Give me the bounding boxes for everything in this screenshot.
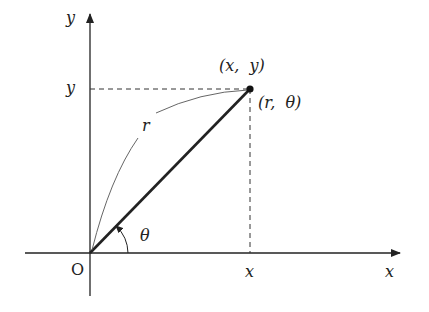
point-marker xyxy=(246,85,253,92)
x-axis-label: x xyxy=(385,264,394,280)
radius-label: r xyxy=(142,118,150,134)
radius-segment xyxy=(90,89,250,253)
y-tick-label: y xyxy=(66,80,75,96)
coordinate-diagram xyxy=(0,0,429,312)
y-axis-label: y xyxy=(66,10,75,26)
angle-label: θ xyxy=(140,228,150,244)
origin-label: O xyxy=(71,262,84,278)
radius-arc-upper xyxy=(156,90,248,113)
cartesian-point-label: (x, y) xyxy=(219,58,265,74)
polar-point-label: (r, θ) xyxy=(258,95,301,111)
radius-arc-lower xyxy=(92,138,138,250)
angle-arc xyxy=(116,226,128,253)
x-tick-label: x xyxy=(245,264,254,280)
